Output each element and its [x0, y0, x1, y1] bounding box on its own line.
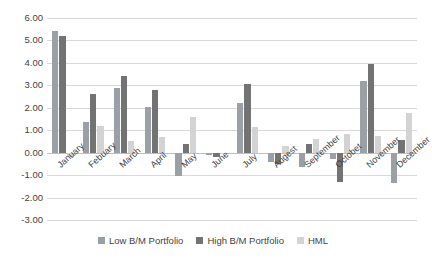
chart-legend: Low B/M PortfolioHigh B/M PortfolioHML [0, 236, 426, 246]
bar [52, 31, 58, 152]
y-axis-tick-label: 2.00 [1, 103, 43, 113]
y-axis-tick-label: -2.00 [1, 193, 43, 203]
bar [90, 94, 96, 152]
bar [59, 36, 65, 152]
y-axis-tick-label: 0.00 [1, 148, 43, 158]
bar [152, 90, 158, 152]
y-axis-tick-label: 6.00 [1, 13, 43, 23]
bar [121, 76, 127, 153]
legend-item[interactable]: HML [297, 236, 328, 246]
bar [244, 84, 250, 152]
bar [183, 144, 189, 153]
legend-swatch-icon [196, 237, 203, 244]
y-axis-tick-label: 5.00 [1, 36, 43, 46]
bar [306, 144, 312, 153]
bar [360, 81, 366, 153]
y-axis-tick-label: -1.00 [1, 170, 43, 180]
legend-item[interactable]: High B/M Portfolio [196, 236, 284, 246]
legend-item[interactable]: Low B/M Portfolio [98, 236, 183, 246]
x-axis: JanuaryFebuaryMarchAprilMayJuneJulyAuges… [47, 163, 417, 233]
y-axis-tick-label: 1.00 [1, 125, 43, 135]
bar [145, 107, 151, 153]
bar [368, 64, 374, 153]
y-axis-tick-label: -3.00 [1, 215, 43, 225]
bar [206, 153, 212, 156]
y-axis-tick-label: 3.00 [1, 81, 43, 91]
bar [190, 117, 196, 153]
bar [237, 103, 243, 152]
legend-label: High B/M Portfolio [207, 236, 284, 246]
legend-swatch-icon [98, 237, 105, 244]
bar [330, 153, 336, 160]
bar [252, 127, 258, 153]
legend-label: Low B/M Portfolio [109, 236, 183, 246]
bar [114, 88, 120, 153]
legend-swatch-icon [297, 237, 304, 244]
y-axis-tick-label: 4.00 [1, 58, 43, 68]
legend-label: HML [308, 236, 328, 246]
